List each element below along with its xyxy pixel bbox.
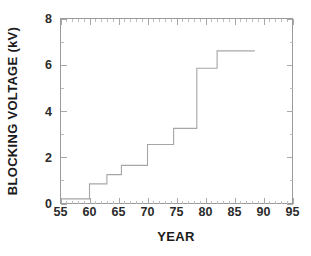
y-tick-label: 0 <box>45 197 52 211</box>
y-axis-title: BLOCKING VOLTAGE (kV) <box>5 27 20 195</box>
x-tick-label: 55 <box>54 205 68 219</box>
x-tick-label: 75 <box>170 205 184 219</box>
y-tick-label: 4 <box>45 105 52 119</box>
x-tick-labels: 556065707580859095 <box>54 205 300 219</box>
y-tick-label: 8 <box>45 12 52 26</box>
x-tick-label: 85 <box>228 205 242 219</box>
chart-figure: 556065707580859095 02468 YEAR BLOCKING V… <box>0 0 311 256</box>
blocking-voltage-vs-year-chart: 556065707580859095 02468 YEAR BLOCKING V… <box>0 0 311 256</box>
y-tick-label: 6 <box>45 58 52 72</box>
x-tick-label: 80 <box>199 205 213 219</box>
x-tick-label: 90 <box>257 205 271 219</box>
x-tick-label: 65 <box>112 205 126 219</box>
x-tick-label: 60 <box>83 205 97 219</box>
x-tick-label: 95 <box>286 205 300 219</box>
x-axis-title: YEAR <box>157 229 195 244</box>
y-tick-label: 2 <box>45 151 52 165</box>
x-tick-label: 70 <box>141 205 155 219</box>
